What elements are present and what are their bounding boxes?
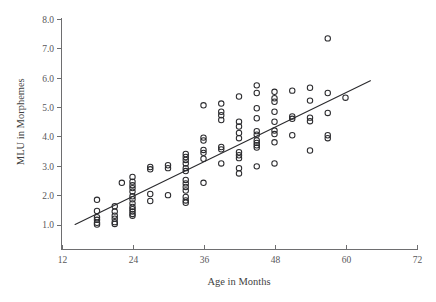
y-axis-tick-label: 3.0	[42, 162, 54, 172]
y-axis-tick-label: 5.0	[42, 103, 54, 113]
data-point	[272, 161, 277, 166]
data-point	[307, 118, 312, 123]
data-point	[94, 208, 99, 213]
data-point	[119, 180, 124, 185]
data-point	[325, 36, 330, 41]
x-axis-tick-label: 48	[271, 255, 281, 265]
regression-line-group	[75, 81, 370, 225]
data-point	[236, 171, 241, 176]
data-point	[254, 83, 259, 88]
data-point	[254, 164, 259, 169]
y-axis-title: MLU in Morphemes	[15, 78, 26, 165]
y-axis-tick-label: 4.0	[42, 132, 54, 142]
y-axis-tick-label: 7.0	[42, 44, 54, 54]
plot-canvas: 1.02.03.04.05.06.07.08.0122436486072Age …	[0, 0, 436, 302]
data-point	[272, 109, 277, 114]
x-axis-tick-label: 36	[200, 255, 210, 265]
data-point	[307, 98, 312, 103]
data-point	[219, 161, 224, 166]
data-point	[254, 116, 259, 121]
x-axis-tick-label: 72	[413, 255, 423, 265]
data-point	[236, 130, 241, 135]
data-point	[272, 99, 277, 104]
data-point	[165, 192, 170, 197]
data-point	[290, 88, 295, 93]
data-points-group	[94, 36, 348, 228]
data-point	[290, 133, 295, 138]
data-point	[148, 191, 153, 196]
scatter-plot-figure: 1.02.03.04.05.06.07.08.0122436486072Age …	[0, 0, 436, 302]
y-axis-tick-label: 6.0	[42, 74, 54, 84]
data-point	[307, 148, 312, 153]
data-point	[219, 101, 224, 106]
data-point	[201, 180, 206, 185]
data-point	[254, 106, 259, 111]
data-point	[272, 131, 277, 136]
data-point	[201, 156, 206, 161]
data-point	[94, 197, 99, 202]
data-point	[201, 103, 206, 108]
data-point	[325, 90, 330, 95]
x-axis-title: Age in Months	[208, 276, 271, 287]
data-point	[325, 110, 330, 115]
x-axis-tick-label: 12	[58, 255, 68, 265]
y-axis-tick-label: 2.0	[42, 191, 54, 201]
data-point	[254, 90, 259, 95]
data-point	[236, 165, 241, 170]
data-point	[236, 135, 241, 140]
x-axis-tick-label: 24	[129, 255, 139, 265]
data-point	[272, 89, 277, 94]
data-point	[272, 119, 277, 124]
data-point	[272, 140, 277, 145]
data-point	[307, 85, 312, 90]
data-point	[236, 94, 241, 99]
data-point	[183, 188, 188, 193]
regression-line	[75, 81, 370, 225]
y-axis-tick-label: 1.0	[42, 220, 54, 230]
x-axis-tick-label: 60	[342, 255, 352, 265]
data-point	[343, 95, 348, 100]
y-axis-tick-label: 8.0	[42, 15, 54, 25]
axes-group	[57, 18, 418, 250]
data-point	[148, 198, 153, 203]
